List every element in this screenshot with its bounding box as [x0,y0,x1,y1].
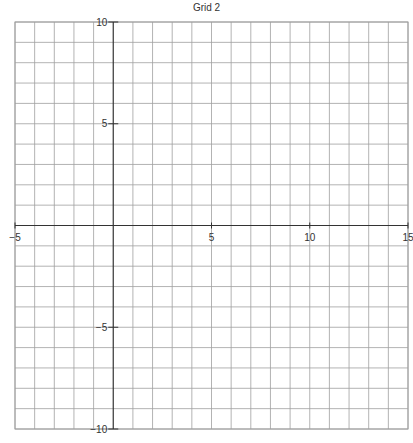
y-tick-label: −10 [90,424,107,435]
x-tick-label: −5 [9,232,21,243]
x-tick-label: 15 [402,232,413,243]
coordinate-grid: −551015105−5−10 [0,0,413,443]
x-tick-label: 10 [304,232,316,243]
y-tick-label: 5 [102,118,108,129]
x-tick-label: 5 [209,232,215,243]
y-tick-label: −5 [96,322,108,333]
y-tick-label: 10 [96,17,108,28]
